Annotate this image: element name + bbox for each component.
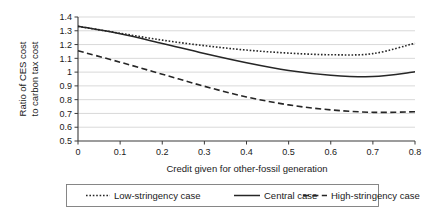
legend-label-dashed: High-stringency case <box>331 190 420 201</box>
x-tick-label: 0.7 <box>367 147 380 157</box>
y-tick-label: 0.8 <box>59 95 72 105</box>
gridlines <box>78 17 415 127</box>
x-tick-label: 0.2 <box>156 147 169 157</box>
series-line-dashed <box>78 51 415 113</box>
legend-label-dotted: Low-stringency case <box>114 190 201 201</box>
x-axis-tick-labels: 00.10.20.30.40.50.60.70.8 <box>75 147 421 157</box>
x-tick-label: 0.3 <box>198 147 211 157</box>
y-tick-label: 1.1 <box>59 54 72 64</box>
y-tick-label: 1.3 <box>59 26 72 36</box>
x-axis-title: Credit given for other-fossil generation <box>166 163 327 174</box>
y-tick-label: 0.9 <box>59 81 72 91</box>
y-tick-label: 0.6 <box>59 122 72 132</box>
y-tick-label: 1.2 <box>59 40 72 50</box>
chart-legend: Low-stringency caseCentral caseHigh-stri… <box>67 185 420 207</box>
x-tick-label: 0.1 <box>114 147 127 157</box>
x-tick-label: 0.4 <box>240 147 253 157</box>
y-tick-label: 1 <box>67 67 72 77</box>
x-tick-label: 0 <box>75 147 80 157</box>
line-chart: 0.50.60.70.80.911.11.21.31.4 00.10.20.30… <box>0 0 434 214</box>
series-line-solid <box>78 26 415 76</box>
x-tick-label: 0.8 <box>409 147 422 157</box>
y-axis-title-line2: to carbon tax cost <box>29 41 40 116</box>
y-tick-label: 1.4 <box>59 12 72 22</box>
y-tick-label: 0.7 <box>59 109 72 119</box>
x-tick-label: 0.5 <box>282 147 295 157</box>
y-axis-tick-labels: 0.50.60.70.80.911.11.21.31.4 <box>59 12 72 146</box>
chart-figure: 0.50.60.70.80.911.11.21.31.4 00.10.20.30… <box>0 0 434 214</box>
x-tick-label: 0.6 <box>324 147 337 157</box>
legend-label-solid: Central case <box>264 190 317 201</box>
y-tick-label: 0.5 <box>59 136 72 146</box>
y-axis-title-line1: Ratio of CES cost <box>17 41 28 116</box>
